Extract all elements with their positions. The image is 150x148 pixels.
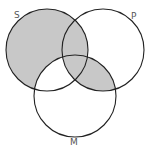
venn-diagram: S P M	[0, 0, 150, 148]
label-s: S	[14, 10, 20, 20]
label-m: M	[70, 137, 78, 147]
label-p: P	[131, 11, 137, 21]
